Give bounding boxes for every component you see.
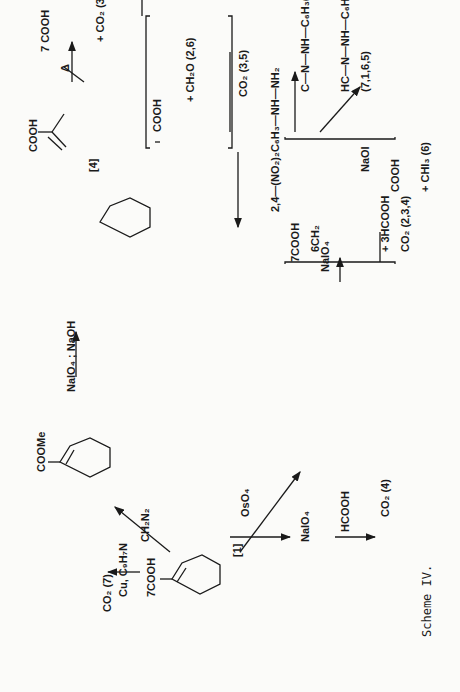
ester-group: COOMe [36,432,47,472]
iodoform-byproduct: + CHI₃ (6) [420,142,431,192]
reagent-periodate-base: NaIO₄ ; NaOH [66,321,77,392]
dialdehyde-co2: CO₂ (2,3,4) [400,196,411,252]
compound-1-label: [1] [232,544,243,557]
osazone-label: (7,1,6,5) [360,51,371,92]
acid-group-7cooh: 7COOH [146,558,157,597]
scheme-page: 7COOH [1] CO₂ (7) Cu, C₉H₇N CH₂N₂ COOMe … [0,0,460,692]
bracket-cooh: COOH [152,99,163,132]
scheme-caption: Scheme IV. [420,565,434,637]
reagent-periodate-2: NaIO₄ [320,241,331,272]
bracket-ch2o: + CH₂O (2,6) [185,38,196,103]
formic-co2: CO₂ (4) [380,479,391,517]
decarboxylation-product: CO₂ (7) [102,574,113,612]
reagent-dnph: 2,4—(NO₂)₂C₆H₃—NH—NH₂ [270,67,281,212]
itaconic-byproduct: + CO₂ (3,5) [95,0,106,42]
reagent-periodate-3: NaIO₄ [300,511,311,542]
dialdehyde-formic: + 3HCOOH [380,195,391,252]
reagent-osmium: OsO₄ [240,489,251,517]
heat-symbol: Δ [60,64,71,72]
reagent-naoi: NaOI [360,146,371,172]
reagent-cu-quinoline: Cu, C₉H₇N [118,543,129,597]
itaconic-cooh: 7 COOH [40,10,51,52]
dialdehyde-7cooh: 7COOH [290,223,301,262]
triacid-cooh: COOH [28,119,39,152]
osazone-line-1: C—N—NH—C₆H₃(NO₂)₂ [300,0,311,92]
reagent-diazomethane: CH₂N₂ [140,508,151,542]
osazone-line-3: HC—N—NH—C₆H₃(NO₂)₂ [340,0,351,92]
oxalic-acid: COOH [390,159,401,192]
triacid-label: [4] [88,159,99,172]
formic-acid: HCOOH [340,491,351,532]
bracket-co2: CO₂ (3,5) [238,50,249,97]
